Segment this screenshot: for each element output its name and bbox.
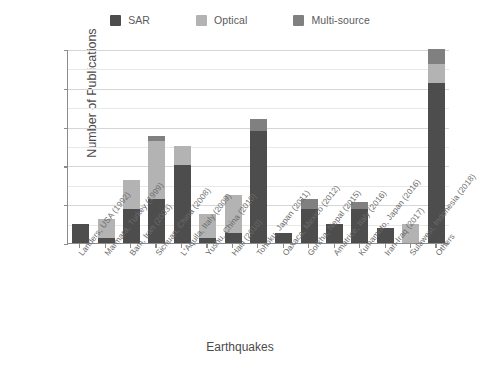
x-label-slot: Amatrice, Italy (2016) xyxy=(326,250,343,334)
legend-swatch-icon xyxy=(293,15,304,26)
x-label-slot: Gorkha, Nepal (2015) xyxy=(300,250,317,334)
legend-swatch-icon xyxy=(110,15,121,26)
bar-segment-multi-source[interactable] xyxy=(428,49,445,64)
legend-entry-optical[interactable]: Optical xyxy=(196,14,247,26)
bar-segment-optical[interactable] xyxy=(174,146,191,165)
chart-legend: SAROpticalMulti-source xyxy=(0,14,480,26)
x-label-slot: Yushu, China (2010) xyxy=(198,250,215,334)
x-label-slot: Kumamoto, Japan (2016) xyxy=(351,250,368,334)
x-label-slot: Sulawesi, Indonesia (2018) xyxy=(402,250,419,334)
bar-segment-optical[interactable] xyxy=(428,64,445,83)
legend-label: Optical xyxy=(214,14,247,26)
x-label-slot: Tohoku, Japan (2011) xyxy=(249,250,266,334)
x-label-slot: Iran-Iraq (2017) xyxy=(377,250,394,334)
legend-entry-multi-source[interactable]: Multi-source xyxy=(293,14,369,26)
y-tick-mark xyxy=(64,89,68,90)
y-tick-mark xyxy=(64,50,68,51)
bar-segment-multi-source[interactable] xyxy=(250,119,267,131)
x-label-slot: L'Aquila, Italy (2009) xyxy=(173,250,190,334)
legend-swatch-icon xyxy=(196,15,207,26)
y-tick-mark xyxy=(64,205,68,206)
legend-label: Multi-source xyxy=(311,14,369,26)
x-label-slot: Landers, USA (1992) xyxy=(71,250,88,334)
x-axis-title: Earthquakes xyxy=(0,340,480,354)
y-tick-mark xyxy=(64,128,68,129)
chart-figure: SAROpticalMulti-source Number of Publica… xyxy=(0,0,480,375)
x-label-slot: Marmara, Turkey (1999) xyxy=(97,250,114,334)
y-tick-mark xyxy=(64,166,68,167)
x-label-slot: Bam, Iran (2003) xyxy=(122,250,139,334)
x-label-slot: Sichuan, China (2008) xyxy=(148,250,165,334)
x-axis-labels: Landers, USA (1992)Marmara, Turkey (1999… xyxy=(67,250,449,334)
x-label-slot: Others xyxy=(428,250,445,334)
x-label-slot: Haiti (2010) xyxy=(224,250,241,334)
legend-label: SAR xyxy=(128,14,150,26)
legend-entry-sar[interactable]: SAR xyxy=(110,14,150,26)
x-label-slot: Oaxaca, Mexico (2012) xyxy=(275,250,292,334)
